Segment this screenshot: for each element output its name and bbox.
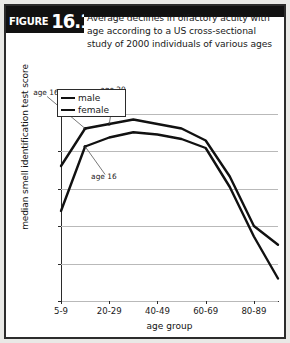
x-tick-label: 60-69 <box>183 306 229 316</box>
chart-legend: male female <box>57 89 126 117</box>
x-tick-label: 80-89 <box>231 306 277 316</box>
x-tick-label: 40-49 <box>134 306 180 316</box>
annotation-leaders <box>61 106 278 301</box>
x-tick-mark <box>206 301 207 304</box>
x-tick-mark <box>61 301 62 304</box>
legend-swatch-female <box>61 109 75 112</box>
x-axis-label: age group <box>61 321 278 331</box>
figure-page: FIGURE 16.10 Average declines in olfacto… <box>0 0 290 343</box>
figure-frame: FIGURE 16.10 Average declines in olfacto… <box>4 4 286 339</box>
figure-number: 16.10 <box>51 11 84 31</box>
figure-caption: Average declines in olfactory acuity wit… <box>87 11 279 51</box>
legend-label-male: male <box>78 93 100 103</box>
figure-number-badge: FIGURE 16.10 <box>6 9 84 33</box>
annotation-label: age 16 <box>33 88 59 97</box>
annotation-leader-line <box>85 147 105 175</box>
legend-label-female: female <box>78 105 109 115</box>
y-axis-label: median smell identification test score <box>20 52 30 242</box>
figure-inner: FIGURE 16.10 Average declines in olfacto… <box>6 6 284 337</box>
chart-container: median smell identification test score a… <box>6 78 284 337</box>
figure-tag-word: FIGURE <box>9 16 48 27</box>
plot-area: 152025303540 5-920-2940-4960-6980-89 age… <box>61 106 278 301</box>
x-tick-label: 5-9 <box>38 306 84 316</box>
x-tick-mark <box>157 301 158 304</box>
annotation-label: age 16 <box>91 172 117 181</box>
legend-swatch-male <box>61 97 75 100</box>
x-tick-label: 20-29 <box>86 306 132 316</box>
legend-item-female: female <box>61 104 125 116</box>
x-tick-mark <box>254 301 255 304</box>
gridline <box>61 301 278 302</box>
legend-item-male: male <box>61 92 125 104</box>
x-tick-mark <box>109 301 110 304</box>
